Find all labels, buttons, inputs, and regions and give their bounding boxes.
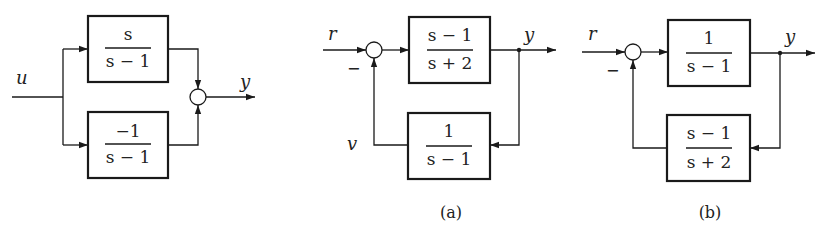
top-output-wire [168, 49, 198, 89]
feedback-diagram-a: r − s − 1 s + 2 y 1 s − 1 v (a) [323, 17, 556, 222]
forward-transfer-block: s − 1 s + 2 [409, 17, 490, 83]
parallel-diagram: u s s − 1 −1 s − 1 y [12, 16, 255, 178]
denominator: s − 1 [427, 149, 472, 169]
numerator: −1 [115, 121, 140, 141]
bottom-output-wire [168, 105, 198, 145]
feedback-transfer-block: s − 1 s + 2 [667, 115, 750, 181]
feedback-transfer-block: 1 s − 1 [408, 113, 490, 179]
summing-junction [625, 44, 641, 60]
denominator: s − 1 [106, 51, 151, 71]
forward-transfer-block: 1 s − 1 [668, 20, 750, 86]
numerator: s [124, 24, 133, 44]
bottom-transfer-block: −1 s − 1 [88, 112, 168, 178]
caption-b: (b) [699, 203, 722, 222]
input-label-u: u [16, 67, 28, 88]
negative-feedback-sign: − [347, 59, 360, 78]
feedback-return-wire [374, 58, 408, 145]
summing-junction [190, 89, 206, 105]
feedback-wire [750, 53, 780, 148]
feedback-label-v: v [347, 133, 357, 154]
numerator: s − 1 [687, 123, 732, 143]
feedback-diagram-b: r − 1 s − 1 y s − 1 s + 2 (b) [582, 20, 815, 222]
numerator: s − 1 [428, 25, 473, 45]
numerator: 1 [704, 28, 715, 48]
block-diagrams: u s s − 1 −1 s − 1 y r − s − [0, 0, 816, 241]
input-label-r: r [588, 23, 598, 44]
denominator: s + 2 [428, 53, 473, 73]
numerator: 1 [444, 121, 455, 141]
negative-feedback-sign: − [606, 61, 619, 80]
denominator: s + 2 [687, 152, 732, 172]
summing-junction [366, 42, 382, 58]
output-label-y: y [523, 24, 535, 45]
output-label-y: y [784, 26, 796, 47]
caption-a: (a) [440, 203, 462, 222]
feedback-return-wire [633, 60, 667, 148]
feedback-wire [490, 50, 519, 145]
denominator: s − 1 [687, 56, 732, 76]
top-transfer-block: s s − 1 [88, 16, 168, 82]
output-label-y: y [239, 71, 251, 92]
input-label-r: r [328, 23, 338, 44]
denominator: s − 1 [106, 147, 151, 167]
